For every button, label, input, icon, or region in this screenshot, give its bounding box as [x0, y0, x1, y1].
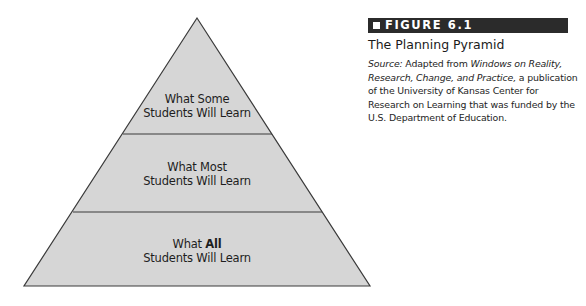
tier-label-line1: What Most — [97, 160, 297, 174]
square-bullet-icon — [373, 22, 380, 29]
emphasis-all: All — [205, 237, 221, 251]
figure-title: The Planning Pyramid — [368, 37, 504, 52]
figure-source-note: Source: Adapted from Windows on Reality,… — [368, 57, 578, 125]
source-lead: Source: — [368, 58, 403, 69]
tier-label-line1: What Some — [97, 92, 297, 106]
tier-label-line1: What All — [97, 237, 297, 251]
figure-number-banner: FIGURE 6.1 — [368, 18, 568, 33]
tier-label-line2: Students Will Learn — [97, 106, 297, 120]
figure-number: FIGURE 6.1 — [385, 18, 473, 33]
tier-label-line2: Students Will Learn — [97, 174, 297, 188]
tier-label-all: What All Students Will Learn — [97, 237, 297, 265]
tier-label-most: What Most Students Will Learn — [97, 160, 297, 188]
tier-label-some: What Some Students Will Learn — [97, 92, 297, 120]
tier-label-line2: Students Will Learn — [97, 251, 297, 265]
